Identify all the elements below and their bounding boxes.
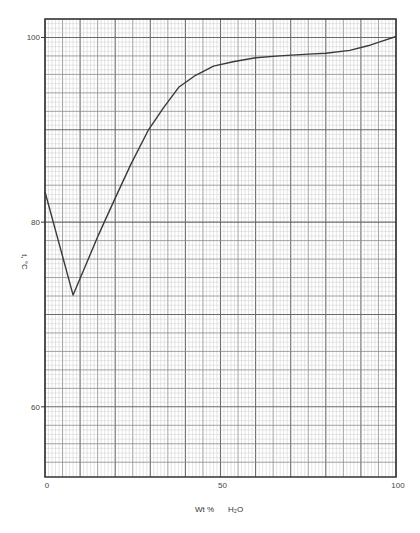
grid (45, 19, 396, 477)
y-axis-ticks: 6080100 (27, 33, 45, 411)
y-tick-label: 100 (27, 33, 41, 42)
phase-diagram-chart: 6080100 050100 t, °C Wt % H₂O (0, 0, 420, 533)
x-tick-label: 100 (391, 481, 405, 490)
x-axis-ticks: 050100 (45, 481, 405, 490)
x-tick-label: 0 (45, 481, 50, 490)
y-axis-label: t, °C (20, 254, 29, 270)
x-tick-label: 50 (218, 481, 227, 490)
y-tick-label: 60 (31, 403, 40, 412)
x-axis-label-wt: Wt % (195, 505, 214, 514)
x-axis-label-h2o: H₂O (228, 505, 243, 514)
y-tick-label: 80 (31, 218, 40, 227)
